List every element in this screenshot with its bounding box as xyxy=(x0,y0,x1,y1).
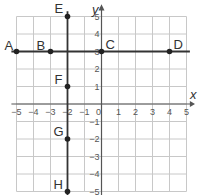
point-f xyxy=(65,84,71,90)
point-label-b: B xyxy=(37,38,46,53)
point-label-g: G xyxy=(54,124,64,139)
x-tick-label: −1 xyxy=(79,107,89,117)
y-tick-label: −2 xyxy=(89,134,99,144)
x-tick-label: −3 xyxy=(45,107,55,117)
y-tick-label: 4 xyxy=(94,29,99,39)
point-b xyxy=(48,49,54,55)
x-tick-label: −4 xyxy=(28,107,38,117)
point-e xyxy=(65,14,71,20)
x-tick-label: 0 xyxy=(96,107,101,117)
x-tick-label: 3 xyxy=(150,107,155,117)
coordinate-plane: −5−4−3−2−101234554321−1−2−3−4−5 ABCDEFGH… xyxy=(0,0,200,195)
point-label-c: C xyxy=(106,37,115,52)
x-axis-label: x xyxy=(189,87,197,102)
y-tick-label: 2 xyxy=(94,64,99,74)
y-tick-label: −3 xyxy=(89,152,99,162)
y-tick-label: −1 xyxy=(89,117,99,127)
axes xyxy=(11,4,195,195)
x-tick-label: −5 xyxy=(11,107,21,117)
x-tick-label: 1 xyxy=(116,107,121,117)
y-tick-label: 1 xyxy=(94,82,99,92)
point-g xyxy=(65,136,71,142)
x-tick-label: 4 xyxy=(167,107,172,117)
point-h xyxy=(65,189,71,195)
point-label-h: H xyxy=(54,177,63,192)
y-tick-label: −5 xyxy=(89,187,99,196)
point-label-d: D xyxy=(174,37,183,52)
x-tick-label: 5 xyxy=(184,107,189,117)
y-tick-label: −4 xyxy=(89,169,99,179)
point-d xyxy=(167,49,173,55)
point-label-e: E xyxy=(55,1,64,16)
point-c xyxy=(99,49,105,55)
x-tick-label: 2 xyxy=(133,107,138,117)
point-label-a: A xyxy=(5,38,14,53)
y-axis-arrow-icon xyxy=(99,4,105,10)
point-a xyxy=(14,49,20,55)
point-label-f: F xyxy=(55,72,63,87)
